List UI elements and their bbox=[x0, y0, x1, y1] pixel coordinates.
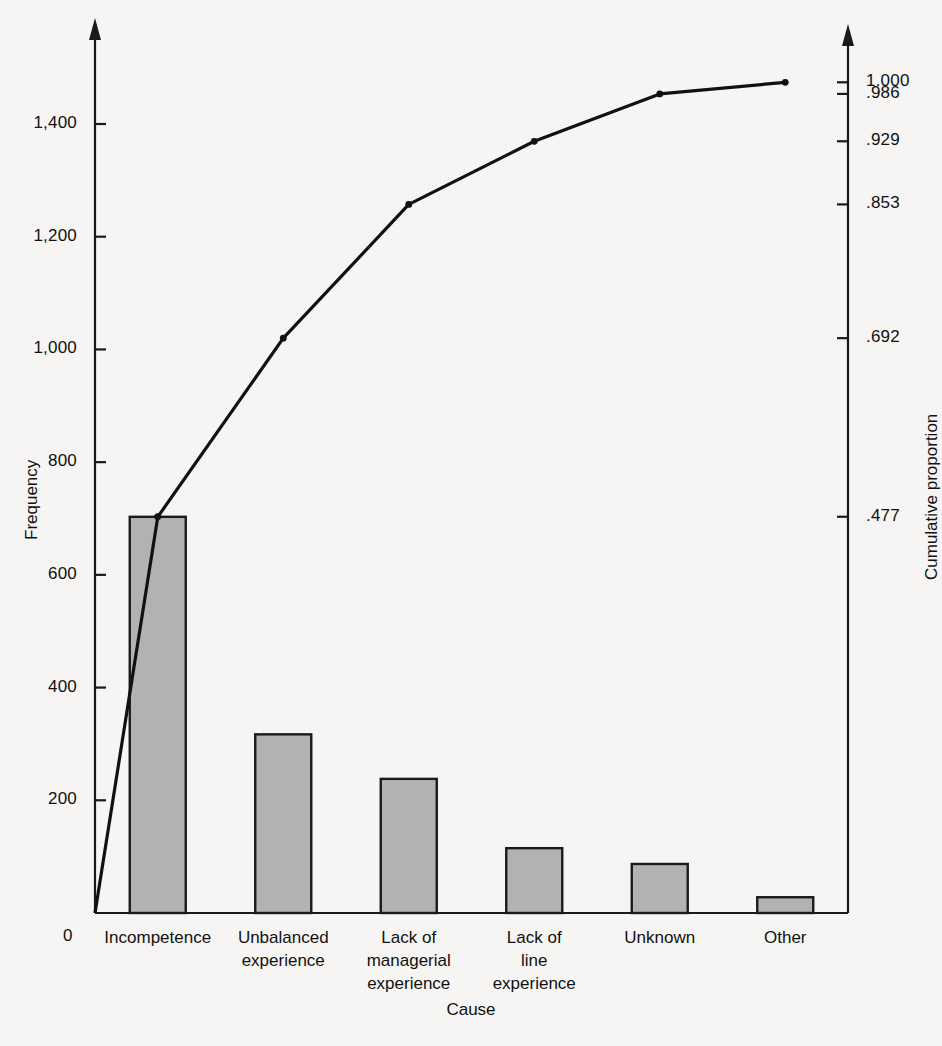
right-tick-label: .692 bbox=[866, 327, 900, 347]
left-tick-label: 1,400 bbox=[0, 113, 77, 133]
axis-origin-label: 0 bbox=[63, 926, 72, 946]
bar-series bbox=[130, 517, 814, 913]
right-tick-label: .477 bbox=[866, 506, 900, 526]
y2-axis-title: Cumulative proportion bbox=[922, 414, 942, 580]
cumulative-polyline bbox=[95, 82, 785, 913]
left-tick-label: 200 bbox=[0, 789, 77, 809]
cumulative-data-point bbox=[782, 79, 789, 86]
right-tick-label: .929 bbox=[866, 130, 900, 150]
bar bbox=[757, 897, 813, 913]
right-axis-ticks bbox=[837, 82, 848, 516]
y-axis-title: Frequency bbox=[22, 460, 42, 540]
right-tick-label: .853 bbox=[866, 193, 900, 213]
right-tick-label: 1.000 bbox=[866, 71, 910, 91]
cumulative-data-point bbox=[154, 513, 161, 520]
right-axis-arrowhead bbox=[842, 24, 854, 46]
bar bbox=[381, 779, 437, 913]
cumulative-data-point bbox=[280, 335, 287, 342]
x-axis-ticks bbox=[158, 901, 786, 913]
chart-plot-area bbox=[0, 0, 942, 1046]
bar bbox=[130, 517, 186, 913]
cumulative-data-point bbox=[405, 201, 412, 208]
pareto-chart: 2004006008001,0001,2001,400 .477.692.853… bbox=[0, 0, 942, 1046]
bar bbox=[255, 734, 311, 913]
left-tick-label: 400 bbox=[0, 677, 77, 697]
x-axis-title: Cause bbox=[0, 1000, 942, 1020]
category-label: Other bbox=[712, 926, 860, 949]
bar bbox=[506, 848, 562, 913]
left-tick-label: 1,200 bbox=[0, 226, 77, 246]
left-axis-ticks bbox=[95, 124, 106, 800]
left-axis bbox=[89, 18, 101, 913]
left-tick-label: 1,000 bbox=[0, 338, 77, 358]
right-axis bbox=[842, 24, 854, 913]
cumulative-line-series bbox=[95, 79, 789, 913]
left-tick-label: 600 bbox=[0, 564, 77, 584]
cumulative-data-point bbox=[531, 138, 538, 145]
bar bbox=[632, 864, 688, 913]
cumulative-data-point bbox=[656, 91, 663, 98]
left-axis-arrowhead bbox=[89, 18, 101, 40]
